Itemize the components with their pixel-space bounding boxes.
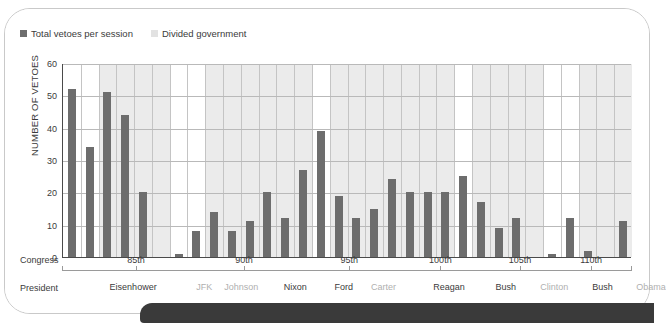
legend-label-total-vetoes: Total vetoes per session [31, 28, 133, 39]
congress-tick-label-85th: 85th [127, 255, 145, 265]
bar [424, 192, 432, 257]
bar [228, 231, 236, 257]
congress-tick-label-110th: 110th [580, 255, 602, 265]
y-tick-label-20: 20 [47, 188, 57, 198]
president-label-jfk-1: JFK [196, 282, 212, 292]
bar [263, 192, 271, 257]
president-label-reagan-6: Reagan [433, 282, 465, 292]
bar-series [63, 64, 631, 257]
president-label-ford-4: Ford [334, 282, 353, 292]
congress-tick-mark [136, 266, 137, 271]
y-tick-label-50: 50 [47, 91, 57, 101]
congress-tick-label-95th: 95th [341, 255, 359, 265]
legend-swatch-light-icon [151, 30, 158, 37]
bar [210, 212, 218, 257]
bar [86, 147, 94, 257]
congress-tick-label-100th: 100th [429, 255, 452, 265]
president-row-label: President [20, 283, 58, 293]
bar [103, 92, 111, 257]
bar [406, 192, 414, 257]
bar [139, 192, 147, 257]
congress-row-label: Congress [20, 255, 59, 265]
congress-tick-label-90th: 90th [235, 255, 253, 265]
y-tick-label-60: 60 [47, 59, 57, 69]
bar [459, 176, 467, 257]
president-label-bush-9: Bush [592, 282, 613, 292]
legend-label-divided-government: Divided government [162, 28, 247, 39]
congress-axis: 85th90th95th100th105th110th [62, 258, 631, 276]
chart-legend: Total vetoes per session Divided governm… [20, 28, 246, 39]
bar [548, 254, 556, 257]
congress-axis-endcap [62, 266, 63, 271]
bar [299, 170, 307, 257]
bar [317, 131, 325, 257]
congress-tick-mark [349, 266, 350, 271]
y-axis-title: NUMBER OF VETOES [29, 36, 40, 176]
president-label-bush-7: Bush [496, 282, 517, 292]
president-label-johnson-2: Johnson [224, 282, 258, 292]
bar [281, 218, 289, 257]
y-tick-label-40: 40 [47, 124, 57, 134]
congress-tick-mark [520, 266, 521, 271]
congress-axis-line [62, 270, 631, 271]
congress-tick-mark [591, 266, 592, 271]
plot-area: 0102030405060 [62, 64, 631, 258]
bar [352, 218, 360, 257]
bar [370, 209, 378, 258]
bottom-accent-bar [140, 303, 654, 323]
bar [68, 89, 76, 257]
bar [192, 231, 200, 257]
bar [495, 228, 503, 257]
president-axis: EisenhowerJFKJohnsonNixonFordCarterReaga… [62, 282, 631, 298]
president-label-nixon-3: Nixon [284, 282, 307, 292]
legend-item-divided-government: Divided government [151, 28, 247, 39]
bar [246, 221, 254, 257]
president-label-clinton-8: Clinton [540, 282, 568, 292]
bar [121, 115, 129, 257]
president-label-obama-10: Obama [636, 282, 666, 292]
y-tick-label-10: 10 [47, 221, 57, 231]
bar [477, 202, 485, 257]
bar [335, 196, 343, 257]
bar [619, 221, 627, 257]
bar [175, 254, 183, 257]
congress-tick-label-105th: 105th [509, 255, 532, 265]
president-label-carter-5: Carter [371, 282, 396, 292]
y-tick-label-30: 30 [47, 156, 57, 166]
congress-axis-endcap [631, 266, 632, 271]
congress-tick-mark [244, 266, 245, 271]
bar [512, 218, 520, 257]
bar [441, 192, 449, 257]
congress-tick-mark [440, 266, 441, 271]
bar [566, 218, 574, 257]
plot-canvas [62, 64, 631, 258]
legend-swatch-dark-icon [20, 30, 27, 37]
bar [388, 179, 396, 257]
president-label-eisenhower-0: Eisenhower [110, 282, 157, 292]
